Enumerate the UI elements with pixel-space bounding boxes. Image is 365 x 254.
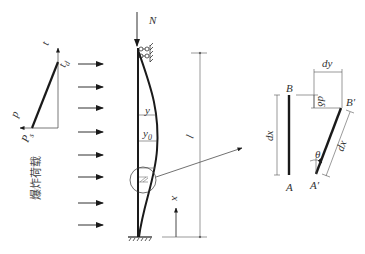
column-deflected-shape xyxy=(138,50,158,237)
axial-load-label: N xyxy=(148,14,157,26)
fixed-support-icon xyxy=(128,237,152,241)
element-detail: B A dx dδ dy B′ A′ xyxy=(263,57,356,193)
rotation-angle-label: θ xyxy=(315,148,321,160)
element-hatch xyxy=(139,177,148,182)
peak-pressure-label: Ps xyxy=(18,130,36,145)
point-a-label: A xyxy=(285,181,293,193)
blast-load-graph: t td p Ps 爆炸荷载 xyxy=(7,39,72,200)
load-decay-line xyxy=(32,62,58,128)
original-length-label: dx xyxy=(263,131,275,142)
initial-deflection-label: y0 xyxy=(142,127,152,142)
length-label: l xyxy=(183,133,195,139)
point-a-prime-label: A′ xyxy=(309,179,320,191)
detail-leader-line xyxy=(156,148,242,177)
blast-load-arrows xyxy=(78,64,103,225)
blast-load-caption: 爆炸荷载 xyxy=(29,156,43,200)
deflection-label: y xyxy=(144,104,150,116)
column: N y y0 xyxy=(128,12,242,241)
pressure-axis-label: p xyxy=(7,109,21,120)
column-buckling-diagram: t td p Ps 爆炸荷载 N xyxy=(0,0,365,254)
x-coordinate-label: x xyxy=(170,195,182,201)
point-b-prime-label: B′ xyxy=(346,96,356,108)
point-b-label: B xyxy=(286,82,293,94)
lateral-offset-label: dy xyxy=(322,57,333,69)
time-axis-label: t xyxy=(39,39,52,47)
vertical-shortening-label: dδ xyxy=(316,96,328,108)
length-dimension xyxy=(191,52,207,238)
